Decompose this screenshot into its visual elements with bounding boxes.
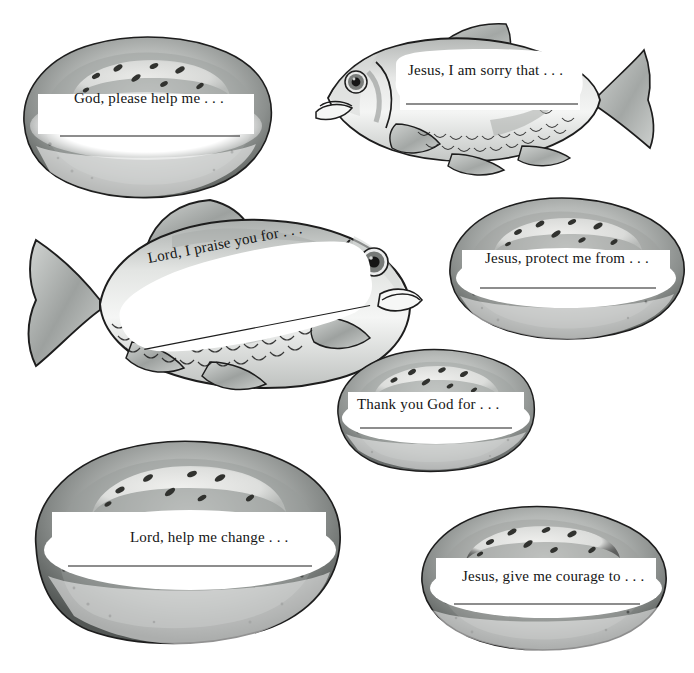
prompt-label-thank-you-god-for: Thank you God for . . . [357,396,500,413]
prompt-label-jesus-protect-me-from: Jesus, protect me from . . . [485,250,649,267]
fish-jesus-i-am-sorry-that[interactable] [300,20,694,190]
caudal-fin [29,240,101,366]
caudal-fin [596,50,654,148]
bread-loaf-god-please-help-me[interactable] [14,26,278,200]
fish-mouth [378,289,422,311]
prompt-label-jesus-i-am-sorry-that: Jesus, I am sorry that . . . [408,62,563,79]
prompt-label-lord-help-me-change: Lord, help me change . . . [130,529,288,546]
anal-fin [518,146,570,166]
prompt-label-jesus-give-me-courage-to: Jesus, give me courage to . . . [462,568,644,585]
prompt-label-god-please-help-me: God, please help me . . . [74,90,224,107]
worksheet-page: God, please help me . . . [0,0,694,673]
